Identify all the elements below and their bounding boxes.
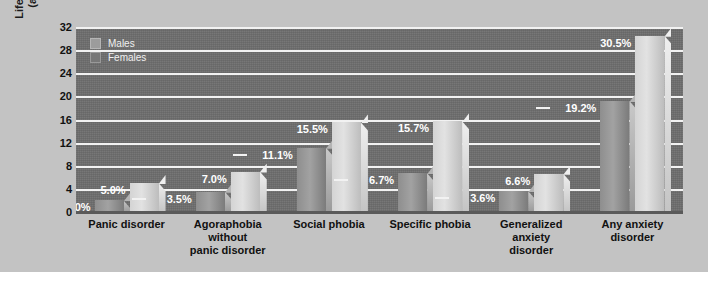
bar-face — [499, 191, 528, 212]
bar-males-4 — [398, 173, 427, 212]
bar-males-5 — [499, 191, 528, 212]
value-label-females-6: 30.5% — [585, 37, 631, 49]
y-tick-32: 32 — [40, 22, 72, 33]
bar-males-2 — [196, 192, 225, 212]
value-label-males-3: 11.1% — [247, 149, 293, 161]
category-label-line: Agoraphobia — [177, 218, 278, 231]
category-label-line: anxiety — [481, 231, 582, 244]
value-label-females-5: 6.6% — [484, 175, 530, 187]
y-tick-12: 12 — [40, 137, 72, 148]
legend-swatch-males-icon — [90, 38, 101, 49]
y-axis-tick-labels: 322824201612840 — [40, 20, 72, 213]
leader-line-2 — [132, 198, 146, 200]
leader-line-5 — [435, 197, 449, 199]
value-label-males-2: 3.5% — [146, 193, 192, 205]
bar-top-shading — [664, 28, 671, 37]
y-tick-16: 16 — [40, 114, 72, 125]
category-label-line: panic disorder — [177, 244, 278, 257]
value-label-females-3: 15.5% — [282, 123, 328, 135]
y-tick-8: 8 — [40, 160, 72, 171]
legend-label-males: Males — [108, 38, 135, 49]
category-label-4: Specific phobia — [380, 218, 481, 231]
y-axis-title-line-1: Lifetime Prevalence — [13, 0, 26, 19]
bar-top-shading — [159, 175, 166, 184]
category-label-2: Agoraphobiawithoutpanic disorder — [177, 218, 278, 257]
category-label-3: Social phobia — [278, 218, 379, 231]
legend-item-females: Females — [90, 51, 146, 64]
y-tick-0: 0 — [40, 207, 72, 218]
leader-line-4 — [334, 179, 348, 181]
legend-item-males: Males — [90, 37, 146, 50]
value-label-females-1: 5.0% — [80, 184, 126, 196]
y-tick-20: 20 — [40, 91, 72, 102]
plot-area: 2.0%5.0%3.5%7.0%11.1%15.5%6.7%15.7%3.6%6… — [76, 27, 683, 212]
value-label-females-2: 7.0% — [181, 173, 227, 185]
category-label-line: Any anxiety — [582, 218, 683, 231]
legend: Males Females — [90, 37, 146, 65]
gridline-20 — [76, 96, 683, 98]
category-label-line: Panic disorder — [76, 218, 177, 231]
value-label-males-6: 19.2% — [550, 102, 596, 114]
gridline-12 — [76, 143, 683, 145]
x-axis-baseline — [76, 211, 683, 214]
bar-females-3 — [332, 122, 361, 212]
bar-face — [600, 101, 629, 212]
gridline-16 — [76, 120, 683, 122]
category-label-6: Any anxietydisorder — [582, 218, 683, 244]
bar-side-shading — [260, 172, 267, 212]
category-label-5: Generalizedanxietydisorder — [481, 218, 582, 257]
bar-face — [398, 173, 427, 212]
gridline-32 — [76, 27, 683, 29]
chart-figure: Lifetime Prevalence (as percentage) 3228… — [0, 0, 708, 272]
bar-females-2 — [231, 172, 260, 212]
bar-side-shading — [664, 36, 671, 212]
leader-line-3 — [233, 154, 247, 156]
bar-side-shading — [563, 174, 570, 212]
bar-face — [534, 174, 563, 212]
leader-line-6 — [536, 107, 550, 109]
category-label-line: disorder — [582, 231, 683, 244]
legend-label-females: Females — [108, 52, 146, 63]
category-label-line: Generalized — [481, 218, 582, 231]
bar-face — [297, 148, 326, 212]
gridline-4 — [76, 189, 683, 191]
bar-side-shading — [361, 122, 368, 212]
y-tick-24: 24 — [40, 68, 72, 79]
bar-females-6 — [635, 36, 664, 212]
category-label-line: without — [177, 231, 278, 244]
bar-females-5 — [534, 174, 563, 212]
gridline-8 — [76, 166, 683, 168]
gridline-28 — [76, 50, 683, 52]
category-label-line: Specific phobia — [380, 218, 481, 231]
value-label-males-5: 3.6% — [449, 192, 495, 204]
bar-face — [635, 36, 664, 212]
bar-face — [231, 172, 260, 212]
category-label-line: disorder — [481, 244, 582, 257]
y-tick-4: 4 — [40, 183, 72, 194]
gridline-24 — [76, 73, 683, 75]
bar-males-6 — [600, 101, 629, 212]
category-label-1: Panic disorder — [76, 218, 177, 231]
y-tick-28: 28 — [40, 45, 72, 56]
x-axis-category-labels: Panic disorderAgoraphobiawithoutpanic di… — [76, 218, 683, 268]
bar-males-3 — [297, 148, 326, 212]
value-label-females-4: 15.7% — [383, 122, 429, 134]
bar-face — [332, 122, 361, 212]
legend-swatch-females-icon — [90, 52, 101, 63]
bar-face — [196, 192, 225, 212]
value-label-males-4: 6.7% — [348, 174, 394, 186]
y-axis-title-line-2: (as percentage) — [26, 0, 39, 8]
category-label-line: Social phobia — [278, 218, 379, 231]
